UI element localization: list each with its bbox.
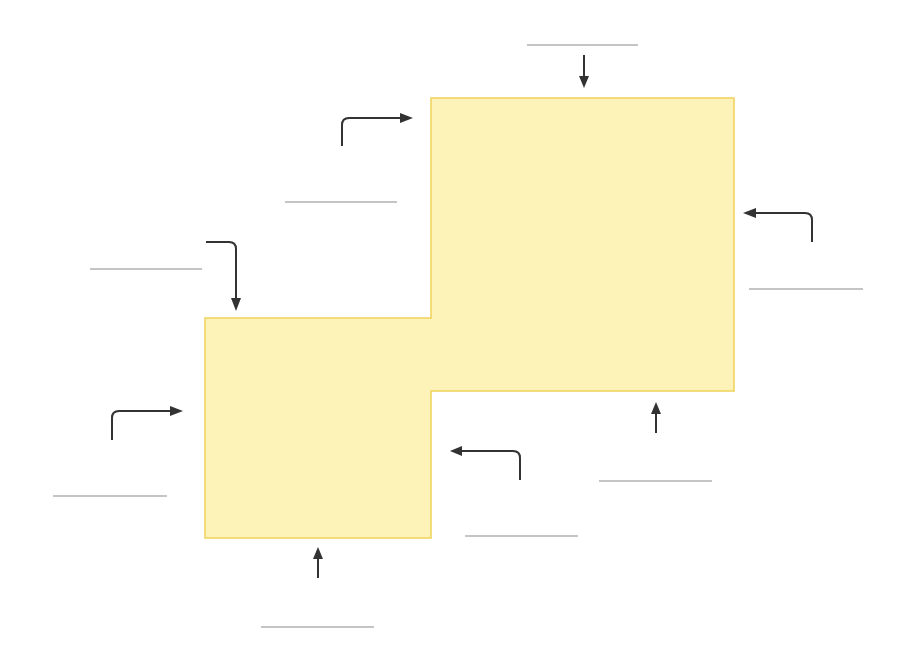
arrow-left-bottom-right-icon <box>112 406 183 440</box>
diagram-canvas <box>0 0 910 656</box>
arrow-right-left-icon <box>743 208 812 242</box>
arrow-left-top-down-icon <box>206 242 241 311</box>
stepped-shape <box>205 98 734 538</box>
arrow-top-down-icon <box>579 55 589 88</box>
arrow-lower-up-icon <box>651 402 661 433</box>
arrow-upper-left-right-icon <box>342 113 413 146</box>
arrow-bottom-up-icon <box>313 547 323 578</box>
arrow-inner-left-icon <box>450 446 520 480</box>
